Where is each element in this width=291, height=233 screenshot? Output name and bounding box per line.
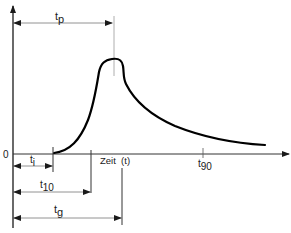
- t90-label: t90: [198, 158, 212, 172]
- x-axis-label: Zeit (t): [100, 155, 130, 166]
- response-diagram: 0 Zeit (t) tp ti t10 tg t90: [0, 0, 291, 233]
- origin-label: 0: [3, 149, 9, 160]
- response-curve: [54, 59, 265, 153]
- t10-label: t10: [40, 179, 54, 193]
- tg-label: tg: [54, 203, 63, 218]
